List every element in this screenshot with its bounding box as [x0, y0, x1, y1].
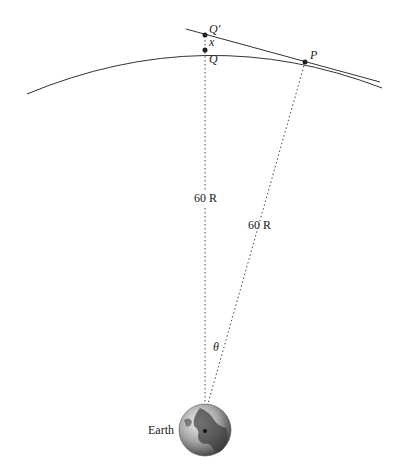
- label-q-prime: Q′: [209, 22, 221, 36]
- label-radius-vertical: 60 R: [194, 191, 217, 205]
- point-q: [203, 48, 208, 53]
- label-theta: θ: [213, 340, 219, 354]
- point-p: [303, 60, 308, 65]
- earth-globe: [179, 404, 231, 456]
- point-q-prime: [203, 33, 208, 38]
- label-earth: Earth: [148, 423, 174, 437]
- label-radius-slanted: 60 R: [248, 218, 271, 232]
- radius-line-slanted: [207, 62, 305, 407]
- label-p: P: [309, 48, 318, 62]
- moon-orbit-diagram: Q′ x Q P 60 R 60 R θ Earth: [0, 0, 402, 475]
- label-q: Q: [209, 52, 218, 66]
- label-x: x: [208, 35, 215, 49]
